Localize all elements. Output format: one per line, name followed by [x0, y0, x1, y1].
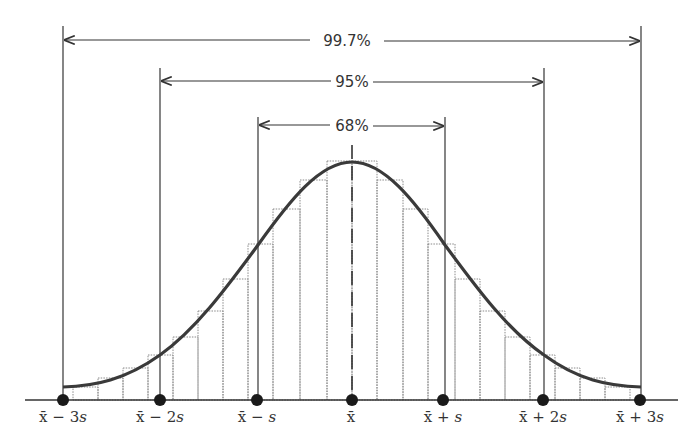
interval-997: 99.7% [64, 32, 640, 50]
interval-label-68: 68% [335, 117, 368, 135]
tick-label-plus-2s: x̄ + 2s [519, 408, 567, 426]
tick-label-minus-s: x̄ − s [238, 408, 277, 426]
tick-label-minus-2s: x̄ − 2s [136, 408, 184, 426]
interval-95: 95% [161, 73, 543, 91]
tick-label-plus-s: x̄ + s [424, 408, 463, 426]
tick-label-minus-3s: x̄ − 3s [39, 408, 87, 426]
tick-label-plus-3s: x̄ + 3s [616, 408, 664, 426]
interval-label-95: 95% [335, 73, 368, 91]
tick-labels: x̄ − 3s x̄ − 2s x̄ − s x̄ x̄ + s x̄ + 2s… [39, 408, 664, 426]
interval-68: 68% [259, 117, 444, 135]
interval-label-997: 99.7% [323, 32, 371, 50]
tick-label-mean: x̄ [347, 408, 356, 426]
normal-distribution-diagram: 99.7% 95% 68% x̄ − 3s x̄ − 2s x̄ − s x̄ … [0, 0, 698, 445]
